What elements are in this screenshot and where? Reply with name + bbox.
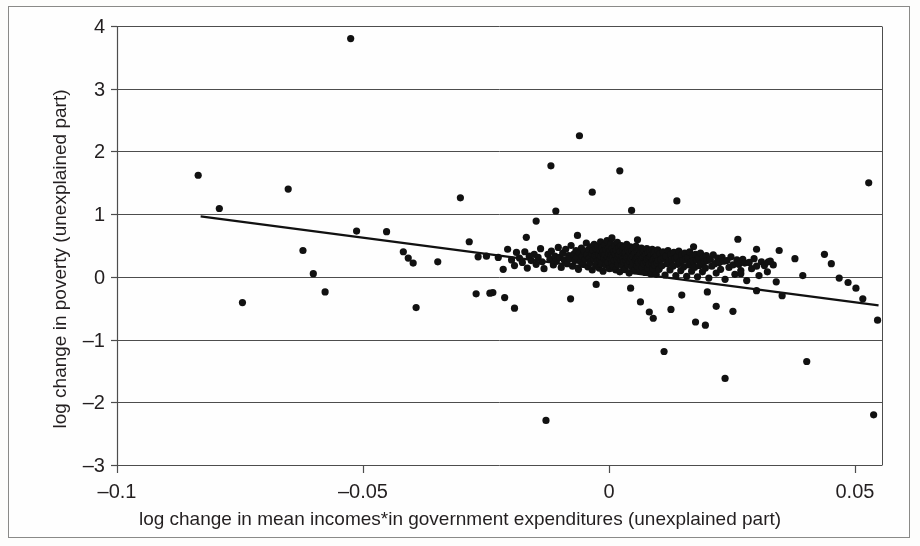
y-tick-label: 0 [94,267,105,287]
x-tick-label: 0 [603,481,614,501]
x-tick-label: 0.05 [835,481,874,501]
y-axis-title: log change in poverty (unexplained part) [49,49,71,469]
y-tick-label: –1 [83,330,105,350]
scatter-plot-canvas [0,0,920,546]
figure-container: –3–2–101234 –0.1–0.0500.05 log change in… [0,0,920,546]
y-tick-label: 1 [94,204,105,224]
y-tick-label: –2 [83,392,105,412]
y-tick-label: –3 [83,455,105,475]
y-tick-label: 3 [94,79,105,99]
x-tick-label: –0.05 [338,481,388,501]
y-tick-label: 4 [94,16,105,36]
x-axis-title: log change in mean incomes*in government… [0,508,920,530]
y-tick-label: 2 [94,141,105,161]
x-tick-label: –0.1 [98,481,137,501]
